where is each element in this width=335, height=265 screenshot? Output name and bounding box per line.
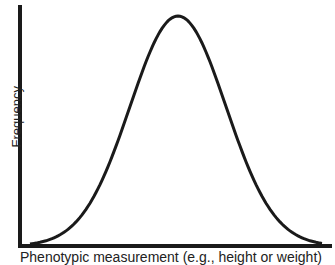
x-axis-label: Phenotypic measurement (e.g., height or … — [20, 249, 322, 265]
y-axis-label: Frequency — [9, 88, 24, 148]
bell-curve — [30, 16, 322, 244]
